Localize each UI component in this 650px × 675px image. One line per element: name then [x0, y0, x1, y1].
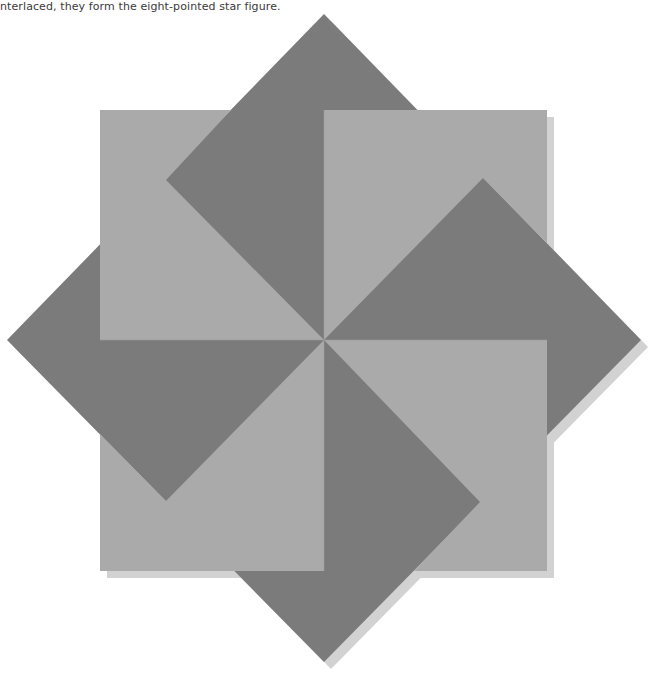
eight-pointed-star-figure	[0, 0, 650, 675]
